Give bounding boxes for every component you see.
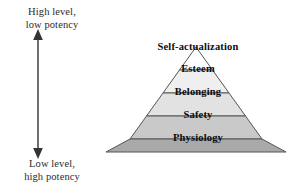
pyramid-tier-label-physiology: Physiology	[100, 132, 296, 143]
double-headed-arrow-icon	[20, 28, 60, 160]
axis-label-low-level: Low level, high potency	[0, 158, 104, 183]
pyramid-tier-label-esteem: Esteem	[100, 63, 296, 74]
needs-pyramid: Self-actualization Esteem Belonging Safe…	[100, 36, 296, 161]
pyramid-tier-label-self-actualization: Self-actualization	[100, 41, 296, 52]
pyramid-tier-label-belonging: Belonging	[100, 86, 296, 97]
pyramid-tier-label-safety: Safety	[100, 109, 296, 120]
maslow-hierarchy-figure: High level, low potency Low level, high …	[0, 0, 302, 194]
potency-axis-group: High level, low potency Low level, high …	[0, 0, 104, 194]
